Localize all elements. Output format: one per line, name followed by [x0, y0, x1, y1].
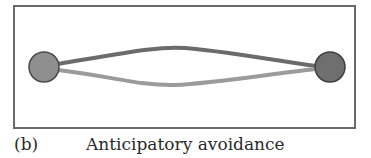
left-node — [29, 52, 59, 82]
lower-path — [58, 69, 316, 85]
caption-title: Anticipatory avoidance — [86, 134, 285, 154]
upper-path — [58, 48, 316, 66]
right-node — [315, 52, 345, 82]
panel-label: (b) — [14, 134, 38, 154]
